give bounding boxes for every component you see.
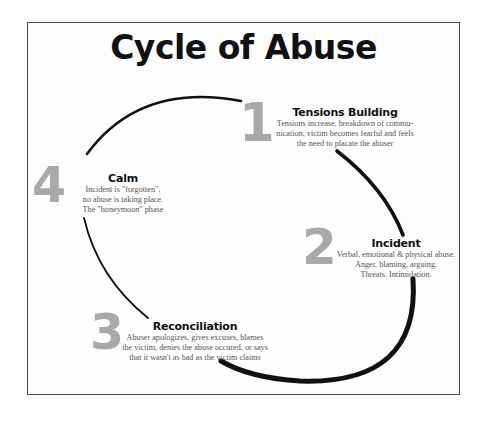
stage-tensions-building: Tensions Building Tensions increase, bre… (262, 106, 428, 149)
stage-line: Tensions increase, breakdown of commu- (262, 119, 428, 129)
stage-line: the victim, denies the abuse occured, or… (120, 343, 270, 353)
arc-reconciliation-to-calm (84, 218, 148, 318)
stage-line: the need to placate the abuser (262, 139, 428, 149)
stage-calm: Calm Incident is "forgotten", no abuse i… (78, 172, 168, 215)
stage-line: nication, victim becomes fearful and fee… (262, 129, 428, 139)
stage-line: no abuse is taking place. (78, 195, 168, 205)
stage-number-2: 2 (302, 222, 337, 272)
stage-line: Incident is "forgotten", (78, 185, 168, 195)
stage-line: Abuser apologizes, gives excuses, blames (120, 333, 270, 343)
stage-heading: Incident (334, 237, 458, 250)
stage-line: Verbal, emotional & physical abuse. (334, 250, 458, 260)
stage-incident: Incident Verbal, emotional & physical ab… (334, 237, 458, 280)
stage-heading: Reconciliation (120, 320, 270, 333)
stage-number-4: 4 (32, 161, 66, 210)
stage-heading: Calm (78, 172, 168, 185)
stage-reconciliation: Reconciliation Abuser apologizes, gives … (120, 320, 270, 363)
stage-line: The "honeymoon" phase (78, 205, 168, 215)
stage-line: Anger, blaming, arguing. (334, 260, 458, 270)
arc-tensions-to-incident (337, 151, 403, 235)
stage-number-3: 3 (90, 308, 124, 357)
stage-heading: Tensions Building (262, 106, 428, 119)
arc-calm-to-tensions (87, 97, 241, 154)
stage-line: that it wasn't as bad as the victim clai… (120, 353, 270, 363)
stage-line: Threats. Intimidation. (334, 270, 458, 280)
